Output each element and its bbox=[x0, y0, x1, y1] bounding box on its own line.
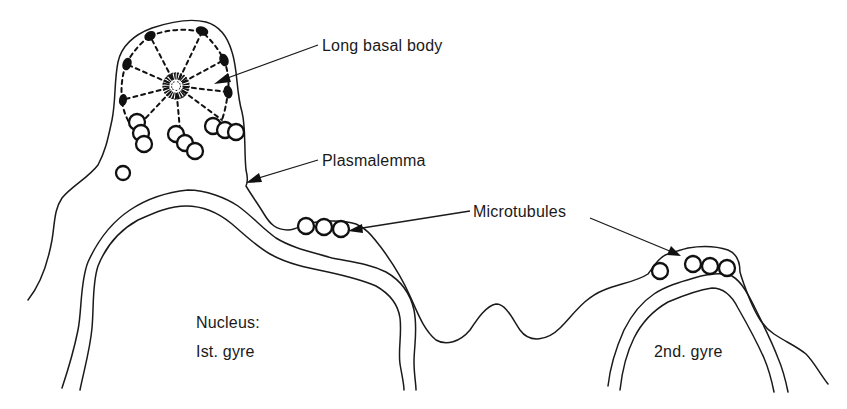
label-long-basal-body: Long basal body bbox=[322, 37, 442, 54]
leader-long-basal-body bbox=[214, 45, 318, 84]
microtubule-group-gyre2 bbox=[652, 256, 735, 279]
plasmalemma-outline bbox=[28, 20, 828, 384]
microtubule-group-apical-middle bbox=[168, 126, 203, 159]
nuclear-envelope-outer-gyre1 bbox=[62, 190, 416, 390]
leader-plasmalemma bbox=[246, 160, 318, 183]
microtubule-single bbox=[116, 166, 130, 180]
cell-diagram: Long basal body Plasmalemma Microtubules… bbox=[0, 0, 847, 409]
microtubule-group-shoulder bbox=[298, 218, 349, 237]
label-first-gyre: Ist. gyre bbox=[196, 343, 255, 360]
nuclear-envelope-inner-gyre1 bbox=[80, 206, 404, 390]
label-second-gyre: 2nd. gyre bbox=[654, 343, 723, 360]
label-plasmalemma: Plasmalemma bbox=[322, 152, 426, 169]
label-nucleus: Nucleus: bbox=[196, 314, 260, 331]
microtubule-group-apical-left bbox=[129, 114, 152, 152]
microtubule-group-apical-right bbox=[205, 118, 244, 140]
label-microtubules: Microtubules bbox=[473, 203, 566, 220]
leader-microtubules-gyre2 bbox=[590, 218, 681, 256]
